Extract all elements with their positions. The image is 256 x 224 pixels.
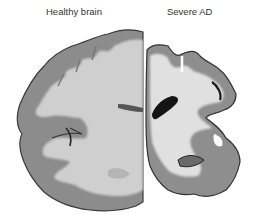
healthy-brain-section bbox=[17, 30, 143, 211]
severe-ad-section bbox=[146, 45, 240, 196]
brain-comparison-figure bbox=[0, 0, 256, 224]
